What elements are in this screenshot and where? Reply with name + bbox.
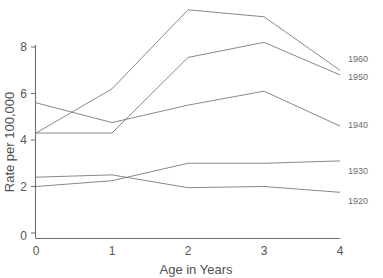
- series-line-1930: [36, 161, 340, 187]
- y-tick-label-2: 2: [20, 180, 27, 194]
- y-tick-label-8: 8: [20, 40, 27, 54]
- series-label-1960: 1960: [348, 54, 368, 64]
- series-line-1940: [36, 91, 340, 126]
- y-axis-title: Rate per 100,000: [2, 92, 17, 192]
- series-line-1920: [36, 175, 340, 192]
- y-tick-label-4: 4: [20, 133, 27, 147]
- y-tick-label-0: 0: [20, 229, 27, 243]
- line-chart: 8 6 4 2 0 0 1 2 3 4 Age in Years Rate pe…: [0, 0, 383, 278]
- chart-canvas: 8 6 4 2 0 0 1 2 3 4 Age in Years Rate pe…: [0, 0, 383, 278]
- x-tick-label-1: 1: [109, 244, 116, 258]
- series-label-1940: 1940: [348, 120, 368, 130]
- x-tick-label-3: 3: [261, 244, 268, 258]
- y-tick-label-6: 6: [20, 87, 27, 101]
- series-label-1920: 1920: [348, 196, 368, 206]
- x-tick-label-2: 2: [185, 244, 192, 258]
- x-tick-label-0: 0: [33, 244, 40, 258]
- x-axis-title: Age in Years: [159, 262, 233, 277]
- x-tick-label-4: 4: [337, 244, 344, 258]
- series-line-1950: [36, 42, 340, 133]
- series-label-1950: 1950: [348, 72, 368, 82]
- series-label-1930: 1930: [348, 166, 368, 176]
